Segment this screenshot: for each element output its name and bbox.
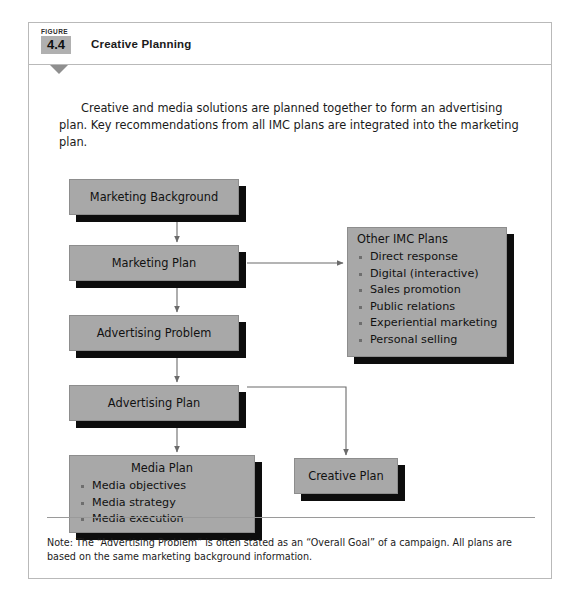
node-media-plan-list: Media objectives Media strategy Media ex…: [70, 478, 254, 528]
node-advertising-plan[interactable]: Advertising Plan: [69, 385, 239, 421]
node-other-imc-plans-list: Direct response Digital (interactive) Sa…: [348, 249, 506, 348]
figure-title: Creative Planning: [91, 38, 192, 50]
figure-badge: FIGURE 4.4: [41, 28, 77, 54]
node-marketing-background-label: Marketing Background: [90, 190, 218, 204]
node-other-imc-plans[interactable]: Other IMC Plans Direct response Digital …: [347, 227, 507, 357]
figure-card: FIGURE 4.4 Creative Planning Creative an…: [28, 22, 552, 579]
node-advertising-problem-label: Advertising Problem: [97, 326, 212, 340]
node-marketing-plan-label: Marketing Plan: [112, 256, 197, 270]
figure-badge-label: FIGURE: [41, 28, 77, 36]
node-marketing-plan[interactable]: Marketing Plan: [69, 245, 239, 281]
node-marketing-background[interactable]: Marketing Background: [69, 179, 239, 215]
list-item: Media execution: [92, 511, 254, 528]
list-item: Sales promotion: [370, 282, 506, 299]
list-item: Media strategy: [92, 495, 254, 512]
node-advertising-problem[interactable]: Advertising Problem: [69, 315, 239, 351]
triangle-marker-icon: [50, 65, 68, 74]
list-item: Experiential marketing: [370, 315, 506, 332]
node-advertising-plan-label: Advertising Plan: [108, 396, 200, 410]
figure-note: Note: The “Advertising Problem” is often…: [47, 536, 533, 564]
list-item: Digital (interactive): [370, 266, 506, 283]
node-creative-plan[interactable]: Creative Plan: [294, 458, 398, 494]
figure-number: 4.4: [41, 36, 71, 54]
list-item: Direct response: [370, 249, 506, 266]
node-creative-plan-label: Creative Plan: [308, 469, 384, 483]
figure-header: FIGURE 4.4 Creative Planning: [29, 23, 551, 65]
node-media-plan[interactable]: Media Plan Media objectives Media strate…: [69, 455, 255, 533]
note-divider: [47, 517, 535, 518]
node-other-imc-plans-label: Other IMC Plans: [348, 228, 506, 246]
list-item: Public relations: [370, 299, 506, 316]
flowchart-diagram: Marketing Background Marketing Plan Adve…: [29, 135, 553, 515]
list-item: Media objectives: [92, 478, 254, 495]
list-item: Personal selling: [370, 332, 506, 349]
node-media-plan-label: Media Plan: [70, 461, 254, 475]
